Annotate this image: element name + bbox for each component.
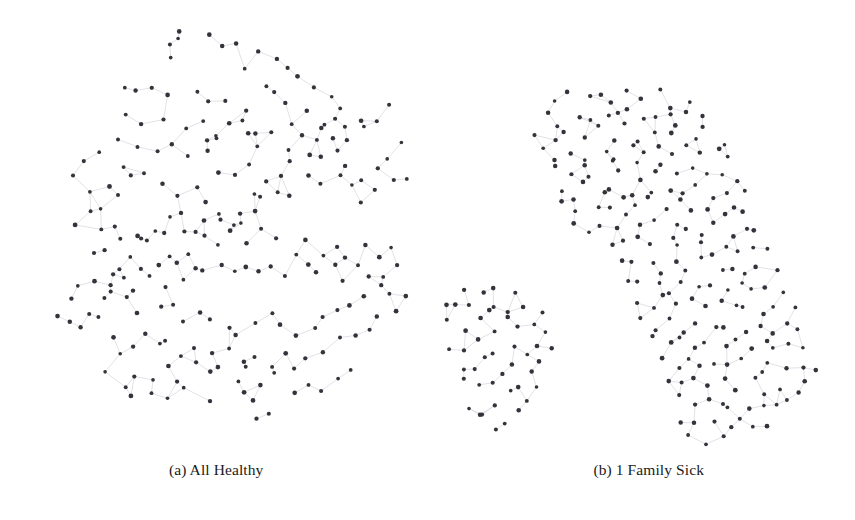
- graph-node: [307, 153, 312, 158]
- graph-node: [626, 279, 630, 283]
- graph-edge: [532, 372, 537, 387]
- graph-edge: [464, 290, 469, 305]
- graph-node: [218, 218, 222, 222]
- graph-node: [753, 376, 757, 380]
- graph-edge: [212, 349, 229, 354]
- graph-node: [679, 280, 683, 284]
- graph-node: [259, 227, 263, 231]
- graph-edge: [464, 331, 466, 351]
- graph-node: [565, 90, 570, 95]
- graph-node: [142, 171, 146, 175]
- graph-node: [698, 150, 702, 154]
- graph-node: [288, 159, 292, 163]
- graph-node: [467, 407, 471, 411]
- graph-node: [272, 90, 276, 94]
- graph-node: [97, 150, 101, 154]
- graph-node: [267, 412, 271, 416]
- graph-node: [801, 346, 805, 350]
- graph-node: [405, 177, 409, 181]
- graph-node: [680, 380, 684, 384]
- graph-node: [560, 189, 564, 193]
- graph-node: [625, 107, 630, 112]
- graph-node: [287, 193, 292, 198]
- caption-one-family-sick: (b) 1 Family Sick: [423, 455, 855, 495]
- graph-node: [107, 184, 112, 189]
- graph-node: [145, 238, 149, 242]
- graph-node: [734, 338, 738, 342]
- graph-node: [123, 86, 127, 90]
- graph-edge: [84, 152, 99, 161]
- graph-edge: [518, 324, 535, 326]
- graph-node: [253, 321, 257, 325]
- graph-node: [568, 151, 572, 155]
- graph-node: [136, 145, 140, 149]
- graph-node: [113, 225, 117, 229]
- graph-node: [684, 143, 688, 147]
- graph-node: [677, 393, 681, 397]
- graph-edge: [332, 97, 341, 109]
- graph-node: [603, 190, 608, 195]
- graph-node: [270, 311, 274, 315]
- graph-node: [375, 119, 379, 123]
- graph-node: [139, 236, 143, 240]
- graph-node: [373, 188, 377, 192]
- graph-node: [201, 119, 205, 123]
- graph-node: [569, 172, 573, 176]
- graph-node: [208, 399, 212, 403]
- graph-node: [103, 370, 107, 374]
- graph-edge: [258, 51, 277, 59]
- graph-node: [605, 150, 609, 154]
- graph-node: [621, 239, 625, 243]
- graph-node: [609, 100, 614, 105]
- graph-node: [673, 123, 678, 128]
- graph-edge: [296, 328, 315, 336]
- graph-node: [549, 346, 553, 350]
- graph-node: [276, 190, 280, 194]
- graph-node: [583, 135, 587, 139]
- graph-edge: [534, 313, 542, 325]
- graph-node: [671, 236, 675, 240]
- graph-node: [678, 336, 682, 340]
- graph-node: [160, 182, 165, 187]
- graph-edge: [295, 385, 309, 393]
- graph-edge: [172, 144, 188, 156]
- graph-node: [689, 208, 694, 213]
- graph-edge: [548, 113, 557, 127]
- graph-edge: [280, 325, 296, 336]
- network-panel-one-family-sick: [430, 0, 855, 450]
- graph-node: [343, 125, 347, 129]
- caption-all-healthy: (a) All Healthy: [0, 455, 423, 495]
- graph-node: [516, 385, 521, 390]
- graph-edge: [767, 363, 786, 368]
- graph-node: [667, 291, 671, 295]
- graph-node: [544, 330, 548, 334]
- graph-node: [215, 136, 219, 140]
- graph-node: [612, 138, 617, 143]
- graph-edge: [141, 120, 163, 125]
- graph-node: [122, 165, 126, 169]
- graph-edge: [111, 292, 127, 298]
- graph-node: [801, 365, 805, 369]
- graph-node: [462, 368, 466, 372]
- graph-node: [732, 205, 737, 210]
- graph-node: [535, 385, 539, 389]
- graph-node: [356, 263, 360, 267]
- graph-node: [254, 417, 258, 421]
- graph-node: [513, 291, 517, 295]
- graph-node: [723, 376, 728, 381]
- graph-edge: [713, 193, 727, 198]
- graph-node: [740, 209, 745, 214]
- graph-node: [697, 285, 701, 289]
- graph-node: [674, 259, 679, 264]
- graph-edge: [168, 356, 181, 366]
- graph-edge: [310, 140, 317, 155]
- graph-node: [87, 312, 91, 316]
- graph-node: [611, 159, 615, 163]
- graph-edge: [78, 281, 95, 286]
- graph-node: [553, 138, 557, 142]
- graph-node: [462, 377, 466, 381]
- graph-node: [269, 264, 273, 268]
- graph-node: [597, 205, 601, 209]
- graph-edge: [464, 339, 478, 350]
- graph-edge: [204, 214, 219, 221]
